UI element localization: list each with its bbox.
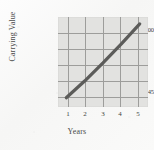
data-series-line — [58, 17, 148, 107]
y-axis-title: Carrying Value — [8, 0, 17, 80]
x-tick-label-2: 2 — [79, 110, 91, 118]
x-tick-label-4: 4 — [114, 110, 126, 118]
x-axis-title: Years — [0, 127, 154, 136]
plot-area — [58, 17, 148, 107]
x-tick-label-5: 5 — [132, 110, 144, 118]
x-tick-label-3: 3 — [97, 110, 109, 118]
x-tick-label-1: 1 — [62, 110, 74, 118]
carrying-value-line-chart: Carrying Value $1,000,000 $957,345 1 2 3… — [0, 0, 154, 150]
